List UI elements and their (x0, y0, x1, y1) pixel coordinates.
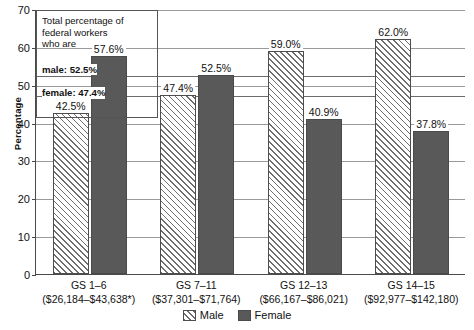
bar-value-label: 52.5% (199, 62, 233, 74)
y-tick-mark (32, 86, 36, 87)
y-tick-label: 30 (18, 155, 30, 167)
bar-value-label: 62.0% (376, 26, 410, 38)
bar-male-1: 47.4% (160, 95, 196, 274)
bar-female-0: 57.6% (91, 56, 127, 274)
bar-value-label: 59.0% (269, 38, 303, 50)
bar-chart: Percentage 42.5%57.6%47.4%52.5%59.0%40.9… (0, 0, 474, 330)
y-tick-label: 60 (18, 42, 30, 54)
note-male-stat: male: 52.5% (42, 64, 97, 76)
x-category-range: ($26,184–$43,638*) (35, 293, 143, 307)
bar-male-2: 59.0% (268, 51, 304, 274)
legend-label-male: Male (200, 309, 224, 321)
bar-value-label: 42.5% (54, 100, 88, 112)
x-category-name: GS 14–15 (358, 279, 466, 293)
legend-swatch-male-icon (183, 310, 196, 321)
y-tick-label: 70 (18, 4, 30, 16)
legend-swatch-female-icon (238, 310, 251, 321)
y-tick-mark (32, 10, 36, 11)
y-tick-mark (32, 124, 36, 125)
legend-label-female: Female (255, 309, 292, 321)
bar-female-2: 40.9% (306, 119, 342, 274)
x-category-2: GS 12–13($66,167–$86,021) (250, 279, 358, 306)
bar-male-3: 62.0% (375, 39, 411, 274)
plot-area: 42.5%57.6%47.4%52.5%59.0%40.9%62.0%37.8%… (35, 10, 465, 275)
legend-item-female: Female (238, 309, 292, 321)
chart-legend: Male Female (0, 309, 474, 321)
x-category-name: GS 1–6 (35, 279, 143, 293)
y-tick-label: 10 (18, 231, 30, 243)
y-tick-mark (32, 199, 36, 200)
y-tick-label: 0 (24, 269, 30, 281)
y-tick-mark (32, 48, 36, 49)
note-line-1: Total percentage of (42, 15, 153, 27)
legend-item-male: Male (183, 309, 224, 321)
y-tick-mark (32, 161, 36, 162)
note-line-2: federal workers (42, 27, 153, 39)
y-tick-mark (32, 275, 36, 276)
y-tick-label: 20 (18, 193, 30, 205)
bar-value-label: 57.6% (92, 43, 126, 55)
y-tick-label: 50 (18, 80, 30, 92)
x-category-range: ($92,977–$142,180) (358, 293, 466, 307)
x-category-range: ($37,301–$71,764) (143, 293, 251, 307)
bar-male-0: 42.5% (53, 113, 89, 274)
x-category-name: GS 7–11 (143, 279, 251, 293)
gridline (36, 10, 465, 11)
bar-value-label: 47.4% (161, 82, 195, 94)
bar-value-label: 37.8% (414, 118, 448, 130)
x-category-range: ($66,167–$86,021) (250, 293, 358, 307)
bar-female-3: 37.8% (413, 131, 449, 274)
x-category-0: GS 1–6($26,184–$43,638*) (35, 279, 143, 306)
x-category-1: GS 7–11($37,301–$71,764) (143, 279, 251, 306)
bar-female-1: 52.5% (198, 75, 234, 274)
x-category-3: GS 14–15($92,977–$142,180) (358, 279, 466, 306)
x-category-name: GS 12–13 (250, 279, 358, 293)
y-tick-label: 40 (18, 118, 30, 130)
y-tick-mark (32, 237, 36, 238)
bar-value-label: 40.9% (307, 106, 341, 118)
x-axis-labels: GS 1–6($26,184–$43,638*)GS 7–11($37,301–… (35, 279, 465, 309)
